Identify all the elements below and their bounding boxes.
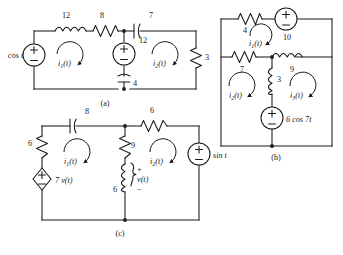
source-10-label: 10	[283, 33, 291, 42]
mesh-current-i2-label: i2(t)	[150, 157, 163, 167]
resistor-3-label: 3	[205, 53, 209, 62]
junction-node	[123, 124, 127, 128]
source-6cos7t	[261, 107, 283, 129]
source-middle-12	[113, 43, 135, 65]
circuit-diagram-svg: 12 8 7 4 3	[0, 0, 343, 255]
source-sin-t-label: sin t	[213, 151, 228, 160]
capacitor-7-label: 7	[149, 11, 153, 20]
junction-node	[270, 55, 274, 59]
source-cos-t-label: cos t	[8, 51, 24, 60]
capacitor-8-label: 8	[85, 107, 89, 116]
dependent-source-7vt-label: 7 v(t)	[55, 176, 73, 185]
inductor-9-label: 9	[290, 65, 294, 74]
circuit-c: 8 6 7 v(t) 9 6	[28, 106, 228, 238]
capacitor-8	[70, 119, 76, 133]
source-10	[275, 8, 297, 30]
resistor-6-top-label: 6	[150, 106, 154, 115]
mesh-current-i1-label: i1(t)	[64, 157, 77, 167]
resistor-3	[191, 48, 202, 68]
mesh-current-i1-label: i1(t)	[249, 39, 262, 49]
voltage-vt-plus: +	[137, 164, 142, 174]
mesh-current-i3-label: i3(t)	[290, 91, 303, 101]
caption-a: (a)	[100, 99, 109, 108]
junction-node	[270, 144, 274, 148]
resistor-7-label: 7	[240, 65, 244, 74]
junction-node	[123, 218, 127, 222]
voltage-vt-label: v(t)	[137, 175, 149, 184]
resistor-6-left	[37, 136, 48, 158]
inductor-12-label: 12	[62, 11, 70, 20]
resistor-4	[238, 14, 262, 25]
junction-node	[122, 87, 126, 91]
source-cos-t	[23, 44, 45, 66]
resistor-9	[120, 136, 131, 158]
caption-c: (c)	[115, 229, 124, 238]
capacitor-4-label: 4	[133, 79, 137, 88]
source-6cos7t-label: 6 cos 7t	[286, 115, 312, 124]
inductor-3-label: 3	[277, 75, 281, 84]
circuit-a: 12 8 7 4 3	[8, 11, 209, 108]
voltage-vt	[131, 163, 136, 186]
mesh-current-i1	[64, 139, 90, 162]
resistor-7	[232, 52, 256, 63]
resistor-9-label: 9	[131, 141, 135, 150]
inductor-6-label: 6	[113, 185, 117, 194]
mesh-current-i2	[150, 139, 176, 162]
mesh-current-i3	[290, 72, 316, 96]
mesh-current-i2-label: i2(t)	[229, 91, 242, 101]
source-middle-12-label: 12	[139, 36, 147, 45]
circuit-c-wires	[42, 126, 199, 220]
inductor-6	[121, 164, 125, 192]
caption-b: (b)	[271, 153, 281, 162]
resistor-8	[93, 26, 118, 37]
inductor-9	[272, 53, 302, 57]
resistor-6-top	[141, 121, 167, 132]
circuit-b: 4 10 7 9 3	[221, 8, 332, 162]
mesh-current-i2	[229, 72, 255, 96]
resistor-4-label: 4	[243, 26, 247, 35]
inductor-12	[55, 27, 86, 31]
source-sin-t	[188, 143, 210, 165]
resistor-8-label: 8	[100, 11, 104, 20]
inductor-3	[268, 68, 272, 94]
mesh-current-i1-label: i1(t)	[58, 59, 71, 69]
junction-node	[122, 29, 126, 33]
figure-canvas: 12 8 7 4 3	[0, 0, 343, 255]
resistor-6-left-label: 6	[28, 139, 32, 148]
mesh-current-i2-label: i2(t)	[153, 59, 166, 69]
voltage-vt-minus: −	[137, 184, 142, 194]
dependent-source-7vt	[33, 168, 51, 190]
